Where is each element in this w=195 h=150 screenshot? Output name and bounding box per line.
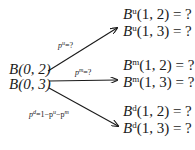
- root-node-b03: B(0, 3): [9, 77, 51, 92]
- branch-label-middle: pm=?: [75, 69, 91, 77]
- branch-label-up: pu=?: [58, 42, 73, 50]
- node-bu-13: Bu(1, 3) = ?: [123, 24, 192, 39]
- arrow-middle: [49, 80, 117, 81]
- node-bm-12: Bm(1, 2) = ?: [123, 58, 194, 73]
- node-bd-12: Bd(1, 2) = ?: [123, 104, 192, 119]
- node-bm-13: Bm(1, 3) = ?: [123, 75, 194, 90]
- arrow-down: [49, 88, 118, 126]
- branch-label-down: pd=1−pu−pm: [29, 111, 69, 119]
- root-node-b02: B(0, 2): [9, 62, 51, 77]
- node-bd-13: Bd(1, 3) = ?: [123, 121, 192, 136]
- node-bu-12: Bu(1, 2) = ?: [123, 7, 192, 22]
